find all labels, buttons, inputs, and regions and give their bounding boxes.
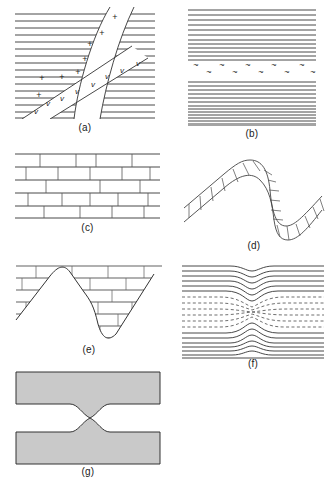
panel-b-lower-strata — [188, 82, 316, 126]
panel-b: ~ ~ ~ ~ ~ ~ ~ ~ ~ ~ — [186, 6, 318, 126]
panel-a-graphic: + + + + + + + + v v v v v v v — [14, 6, 156, 134]
panel-f-lower-solid — [182, 323, 324, 358]
svg-text:~: ~ — [258, 67, 263, 77]
panel-f-upper-solid — [182, 266, 324, 301]
fold-inner-edge — [184, 160, 322, 226]
svg-text:~: ~ — [310, 67, 315, 77]
svg-text:+: + — [36, 90, 41, 100]
svg-text:+: + — [75, 67, 80, 77]
panel-b-graphic: ~ ~ ~ ~ ~ ~ ~ ~ ~ ~ — [186, 6, 318, 126]
panel-g-label: (g) — [14, 466, 162, 477]
svg-text:~: ~ — [284, 67, 289, 77]
panel-b-label: (b) — [186, 128, 318, 139]
panel-f: (f) — [180, 262, 326, 360]
panel-g-upper-layer — [16, 372, 160, 418]
panel-d-fold-band — [184, 160, 322, 240]
unconformity-symbols: ~ ~ ~ ~ ~ ~ ~ ~ ~ ~ — [193, 60, 315, 77]
panel-e: (e) — [14, 262, 164, 358]
panel-d-label: (d) — [180, 240, 328, 251]
svg-text:+: + — [39, 73, 44, 83]
panel-d-graphic — [180, 146, 328, 254]
panel-d: (d) — [180, 146, 328, 254]
svg-text:~: ~ — [219, 60, 224, 70]
figure-root: + + + + + + + + v v v v v v v — [0, 0, 333, 483]
panel-c-bedding — [15, 154, 160, 218]
svg-text:+: + — [112, 12, 117, 22]
panel-g-lower-layer — [16, 418, 160, 464]
panel-a-label: (a) — [14, 122, 156, 133]
panel-a-strata: + + + + + + + + v v v v v v v — [15, 7, 155, 119]
svg-text:~: ~ — [206, 67, 211, 77]
panel-e-bedded-rock — [14, 266, 164, 350]
panel-g-graphic — [14, 370, 162, 480]
panel-a: + + + + + + + + v v v v v v v — [14, 6, 156, 134]
panel-f-dashed-traces — [182, 297, 324, 327]
fold-outer-edge — [184, 175, 322, 240]
panel-f-label: (f) — [180, 358, 326, 369]
panel-g: (g) — [14, 370, 162, 480]
panel-e-label: (e) — [14, 344, 164, 355]
svg-text:+: + — [59, 72, 64, 82]
svg-text:~: ~ — [245, 60, 250, 70]
panel-c: (c) — [14, 152, 161, 234]
panel-f-graphic — [180, 262, 326, 360]
svg-text:+: + — [82, 54, 87, 64]
panel-b-upper-strata — [188, 10, 316, 60]
svg-text:~: ~ — [193, 60, 198, 70]
svg-text:+: + — [99, 28, 104, 38]
svg-text:~: ~ — [232, 67, 237, 77]
svg-text:+: + — [87, 39, 92, 49]
panel-c-joints — [26, 154, 150, 218]
panel-c-label: (c) — [14, 222, 161, 233]
svg-text:~: ~ — [271, 60, 276, 70]
svg-text:~: ~ — [299, 60, 304, 70]
